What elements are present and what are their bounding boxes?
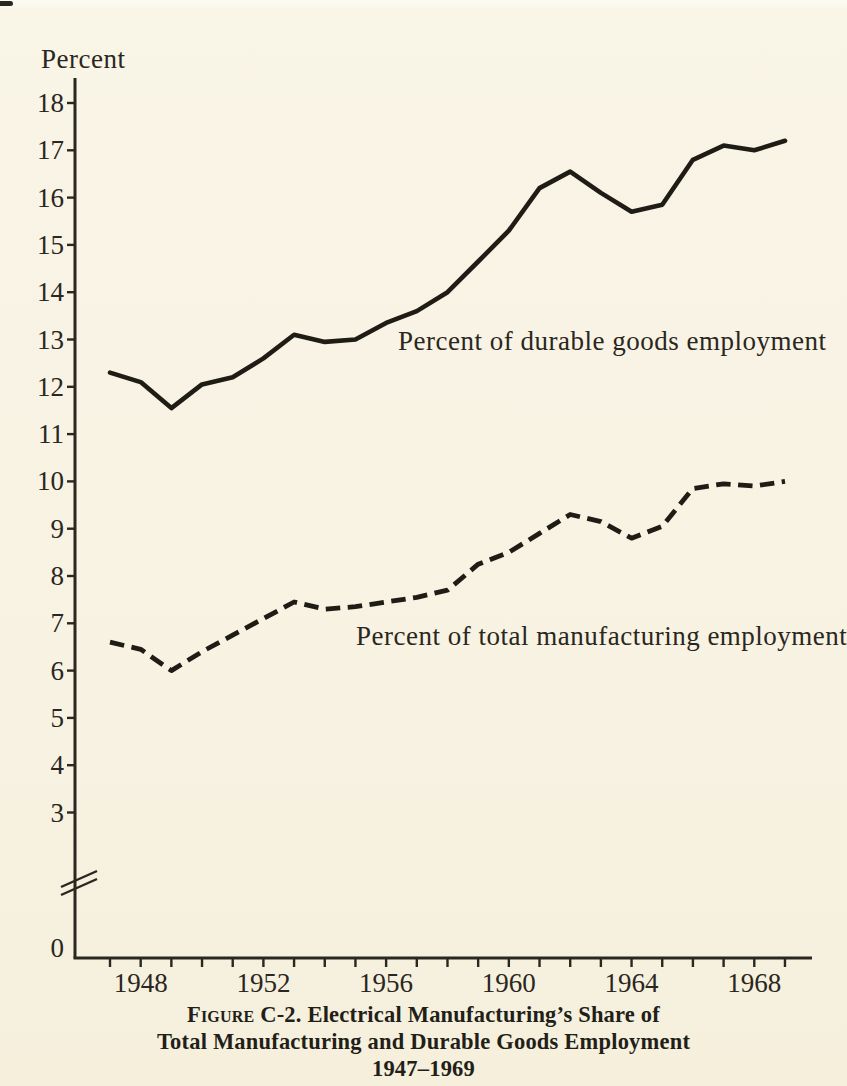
y-tick-label-9: 9 xyxy=(51,514,65,544)
y-tick-label-8: 8 xyxy=(51,561,65,591)
caption-line-1: Figure C-2. Electrical Manufacturing’s S… xyxy=(0,1001,847,1028)
x-tick-label-1968: 1968 xyxy=(727,968,781,998)
y-tick-label-16: 16 xyxy=(37,183,64,213)
durable-goods-series-line xyxy=(110,141,785,408)
y-tick-label-3: 3 xyxy=(51,798,65,828)
y-tick-label-13: 13 xyxy=(37,325,64,355)
y-origin-label: 0 xyxy=(51,933,65,963)
y-tick-label-17: 17 xyxy=(37,135,64,165)
caption-line-3: 1947–1969 xyxy=(0,1055,847,1082)
y-tick-label-7: 7 xyxy=(51,608,65,638)
x-tick-label-1964: 1964 xyxy=(605,968,660,998)
y-tick-label-14: 14 xyxy=(37,277,65,307)
durable-series-label: Percent of durable goods employment xyxy=(398,326,826,357)
caption-line-2: Total Manufacturing and Durable Goods Em… xyxy=(0,1028,847,1055)
y-tick-label-12: 12 xyxy=(37,372,64,402)
y-tick-label-18: 18 xyxy=(37,88,64,118)
y-tick-label-5: 5 xyxy=(51,703,65,733)
figure-caption: Figure C-2. Electrical Manufacturing’s S… xyxy=(0,1001,847,1082)
axis-break-mark-lower xyxy=(61,879,97,895)
x-tick-label-1960: 1960 xyxy=(482,968,536,998)
y-tick-label-4: 4 xyxy=(51,750,65,780)
caption-line-1-text: Electrical Manufacturing’s Share of xyxy=(302,1002,660,1027)
y-axis-unit-label: Percent xyxy=(41,44,125,75)
figure-page: 1817161514131211109876543019481952195619… xyxy=(0,0,847,1086)
y-tick-label-10: 10 xyxy=(37,466,64,496)
y-tick-label-11: 11 xyxy=(38,419,64,449)
x-tick-label-1956: 1956 xyxy=(359,968,413,998)
y-tick-label-15: 15 xyxy=(37,230,64,260)
x-tick-label-1948: 1948 xyxy=(114,968,168,998)
y-tick-label-6: 6 xyxy=(51,656,65,686)
caption-figure-number: Figure C-2. xyxy=(187,1002,302,1027)
total-series-label: Percent of total manufacturing employmen… xyxy=(356,621,847,652)
x-tick-label-1952: 1952 xyxy=(236,968,290,998)
chart-canvas: 1817161514131211109876543019481952195619… xyxy=(0,0,847,1086)
axis-break-mark-upper xyxy=(61,871,97,887)
